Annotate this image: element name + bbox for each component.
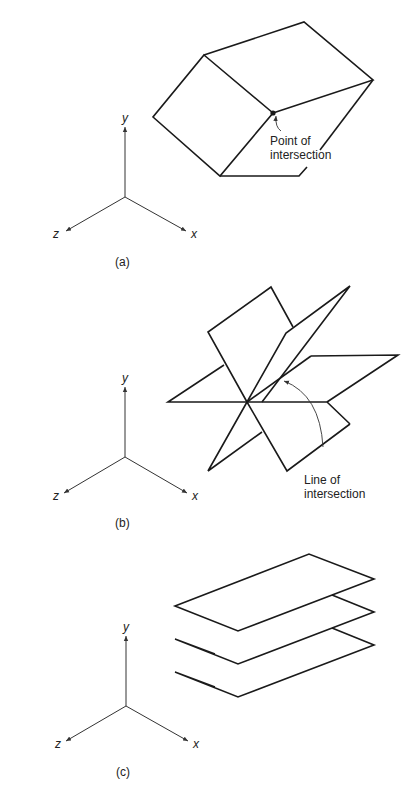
plane-horizontal-left — [168, 365, 350, 424]
z-axis-label: z — [54, 737, 61, 751]
prism-planes — [153, 22, 373, 176]
intersecting-planes — [168, 286, 398, 471]
plane-right-edge — [320, 80, 373, 150]
caption-a: (a) — [115, 255, 130, 269]
x-axis — [125, 457, 187, 493]
x-axis — [126, 706, 188, 741]
plane-tilted-1-bottom — [247, 402, 350, 471]
x-axis — [125, 197, 186, 231]
y-axis-label: y — [121, 111, 129, 125]
caption-c: (c) — [116, 765, 130, 779]
panel-c: y z x (c) — [54, 554, 374, 779]
line-annotation-line1: Line of — [304, 473, 341, 487]
point-annotation-line2: intersection — [270, 148, 331, 162]
caption-b: (b) — [115, 516, 130, 530]
axes-b: y z x — [52, 371, 199, 503]
z-axis — [66, 197, 125, 231]
z-axis — [64, 457, 125, 493]
plane-front-left — [153, 55, 273, 176]
figure-canvas: y z x Point of intersection (a) y z x — [0, 0, 417, 810]
intersection-point — [270, 110, 275, 115]
line-pointer-arrow — [284, 381, 323, 447]
axes-a: y z x — [52, 111, 198, 241]
parallel-planes — [175, 554, 374, 697]
plane-parallel-middle — [175, 595, 374, 664]
plane-top — [204, 22, 373, 113]
x-axis-label: x — [192, 737, 200, 751]
z-axis-label: z — [52, 227, 59, 241]
point-annotation-line1: Point of — [270, 134, 311, 148]
plane-parallel-bottom — [175, 628, 374, 697]
x-axis-label: x — [191, 489, 199, 503]
y-axis-label: y — [121, 371, 129, 385]
panel-b: y z x Line of intersection (b) — [52, 286, 398, 530]
plane-bottom-edge — [220, 167, 307, 176]
z-axis — [66, 706, 126, 741]
plane-tilted-2-top — [247, 286, 350, 402]
plane-parallel-top — [175, 554, 374, 631]
point-pointer-arrow — [276, 116, 281, 131]
panel-a: y z x Point of intersection (a) — [52, 22, 373, 269]
plane-horizontal-right — [311, 355, 398, 402]
z-axis-label: z — [52, 489, 59, 503]
line-annotation-line2: intersection — [304, 487, 365, 501]
x-axis-label: x — [190, 227, 198, 241]
y-axis-label: y — [122, 620, 130, 634]
